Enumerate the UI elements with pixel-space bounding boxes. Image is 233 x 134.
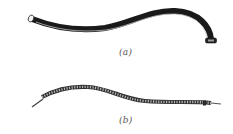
cable-wire-left xyxy=(32,99,43,107)
panel-a-label: (a) xyxy=(119,47,132,57)
cable-collar-right xyxy=(203,101,206,106)
cable-wire-right xyxy=(211,103,221,104)
panel-b-label: (b) xyxy=(119,115,133,125)
figure-canvas xyxy=(0,0,233,134)
tube-end-cap-right-inner xyxy=(208,40,214,42)
panel-a-tube xyxy=(27,11,216,43)
panel-b-cable xyxy=(32,87,221,107)
